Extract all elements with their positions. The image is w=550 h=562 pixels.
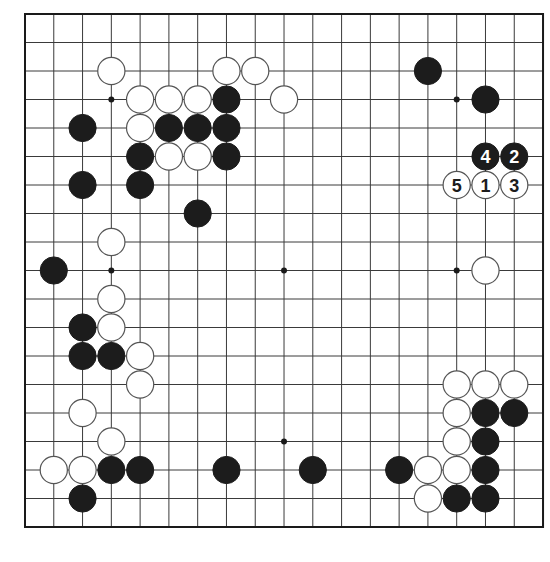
numbered-move-1: 1 xyxy=(472,171,499,198)
black-stone xyxy=(184,200,211,227)
move-number-label: 4 xyxy=(480,147,490,167)
go-board: 12345 xyxy=(0,0,550,562)
white-stone xyxy=(98,228,125,255)
white-stone xyxy=(155,86,182,113)
white-stone xyxy=(443,428,470,455)
white-stone xyxy=(69,399,96,426)
star-point xyxy=(108,268,114,274)
black-stone xyxy=(69,314,96,341)
white-stone xyxy=(127,114,154,141)
white-stone xyxy=(127,371,154,398)
numbered-move-3: 3 xyxy=(501,171,528,198)
white-stone xyxy=(127,342,154,369)
black-stone xyxy=(184,114,211,141)
black-stone xyxy=(155,114,182,141)
star-point xyxy=(108,97,114,103)
white-stone xyxy=(472,257,499,284)
black-stone xyxy=(213,456,240,483)
star-point xyxy=(454,97,460,103)
numbered-move-5: 5 xyxy=(443,171,470,198)
black-stone xyxy=(386,456,413,483)
white-stone xyxy=(98,428,125,455)
black-stone xyxy=(472,485,499,512)
white-stone xyxy=(501,371,528,398)
white-stone xyxy=(414,485,441,512)
black-stone xyxy=(98,456,125,483)
black-stone xyxy=(127,143,154,170)
black-stone xyxy=(213,114,240,141)
star-point xyxy=(281,268,287,274)
move-number-label: 5 xyxy=(452,176,462,196)
white-stone xyxy=(155,143,182,170)
white-stone xyxy=(472,371,499,398)
star-point xyxy=(281,439,287,445)
black-stone xyxy=(69,114,96,141)
white-stone xyxy=(270,86,297,113)
white-stone xyxy=(184,86,211,113)
black-stone xyxy=(40,257,67,284)
numbered-move-4: 4 xyxy=(472,143,499,170)
black-stone xyxy=(443,485,470,512)
black-stone xyxy=(213,143,240,170)
black-stone xyxy=(69,485,96,512)
black-stone xyxy=(414,57,441,84)
white-stone xyxy=(213,57,240,84)
white-stone xyxy=(98,314,125,341)
white-stone xyxy=(184,143,211,170)
white-stone xyxy=(443,456,470,483)
white-stone xyxy=(40,456,67,483)
white-stone xyxy=(69,456,96,483)
white-stone xyxy=(127,86,154,113)
white-stone xyxy=(414,456,441,483)
white-stone xyxy=(98,57,125,84)
move-number-label: 2 xyxy=(509,147,519,167)
numbered-move-2: 2 xyxy=(501,143,528,170)
black-stone xyxy=(472,399,499,426)
black-stone xyxy=(472,456,499,483)
black-stone xyxy=(127,456,154,483)
black-stone xyxy=(98,342,125,369)
black-stone xyxy=(472,86,499,113)
white-stone xyxy=(443,371,470,398)
white-stone xyxy=(98,285,125,312)
black-stone xyxy=(127,171,154,198)
move-number-label: 1 xyxy=(480,176,490,196)
star-point xyxy=(454,268,460,274)
black-stone xyxy=(213,86,240,113)
black-stone xyxy=(69,171,96,198)
move-number-label: 3 xyxy=(509,176,519,196)
go-board-svg: 12345 xyxy=(0,0,550,562)
black-stone xyxy=(69,342,96,369)
black-stone xyxy=(472,428,499,455)
black-stone xyxy=(501,399,528,426)
white-stone xyxy=(242,57,269,84)
black-stone xyxy=(299,456,326,483)
white-stone xyxy=(443,399,470,426)
